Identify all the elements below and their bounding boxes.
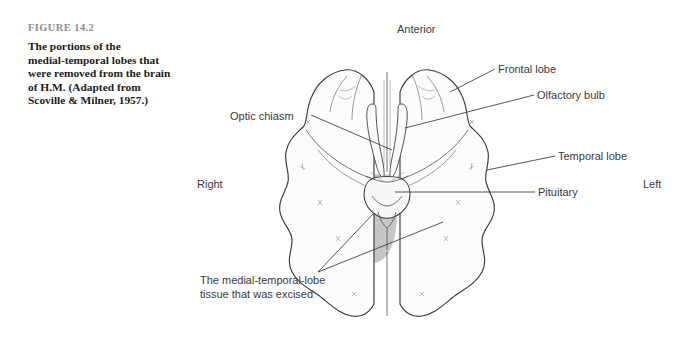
label-right: Right <box>197 178 223 192</box>
figure-page: FIGURE 14.2 The portions of the medial-t… <box>0 0 692 345</box>
label-frontal-lobe: Frontal lobe <box>498 63 556 77</box>
label-pituitary: Pituitary <box>538 186 578 200</box>
label-temporal-lobe: Temporal lobe <box>558 150 627 164</box>
leader-frontal-lobe <box>450 69 495 92</box>
label-olfactory-bulb: Olfactory bulb <box>537 89 605 103</box>
label-optic-chiasm: Optic chiasm <box>230 110 294 124</box>
label-excised-tissue: The medial-temporal-lobe tissue that was… <box>200 274 325 301</box>
label-left: Left <box>643 178 661 192</box>
label-anterior: Anterior <box>397 23 436 37</box>
leader-temporal-lobe <box>487 156 555 170</box>
brain-diagram <box>0 0 692 345</box>
